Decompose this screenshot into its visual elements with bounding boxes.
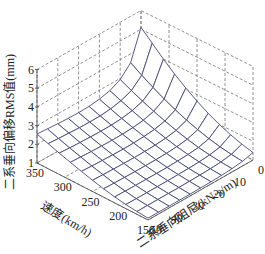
speed-tick-label: 350 xyxy=(26,166,44,180)
surface-chart: 12345615020025030035001020304050 二系垂向偏移R… xyxy=(0,0,265,254)
z-tick-label: 3 xyxy=(28,119,34,133)
z-tick-label: 5 xyxy=(28,81,34,95)
z-tick-label: 2 xyxy=(28,137,34,151)
z-tick-label: 4 xyxy=(28,100,34,114)
damping-tick-label: 0 xyxy=(258,163,264,177)
speed-tick-label: 300 xyxy=(54,180,72,194)
z-axis-title: 二系垂向偏移RMS值(mm) xyxy=(2,54,17,190)
speed-tick-label: 200 xyxy=(109,209,127,223)
z-tick-label: 6 xyxy=(28,63,34,77)
speed-tick-label: 250 xyxy=(82,195,100,209)
